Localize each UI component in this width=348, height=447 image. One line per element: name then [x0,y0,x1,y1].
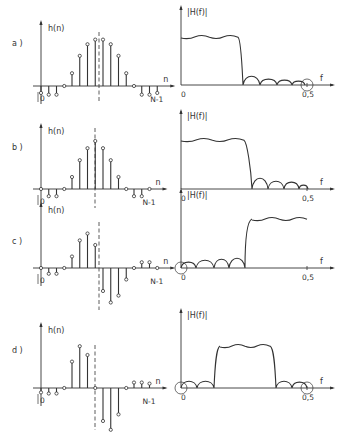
f-end-label: 0,5 [302,90,314,99]
sample-marker [117,54,120,57]
n-axis-label: n [156,377,161,386]
sample-marker [140,381,143,384]
sample-marker [101,419,104,422]
n-zero-label: 0 [40,396,45,405]
impulse-response-plot: h(n)n0N-1 [33,20,175,104]
H-axis-label: |H(f)| [187,191,207,200]
sample-marker [148,382,151,385]
arrow-right-icon [170,266,175,269]
arrow-right-icon [170,84,175,87]
sample-marker [125,278,128,281]
sample-marker [39,391,42,394]
arrow-up-icon [179,109,182,114]
sample-marker [101,289,104,292]
arrow-up-icon [39,123,42,128]
sample-marker [47,272,50,275]
sample-marker [86,353,89,356]
fir-filter-figure: a ) h(n)n0N-1 |H(f)|f00,5 b ) h(n)n0N-1 … [0,0,348,447]
sample-marker [140,261,143,264]
n-axis-label: n [163,75,168,84]
sample-marker [55,93,58,96]
sample-marker [94,243,97,246]
sample-marker [132,266,135,269]
panel-label: d ) [12,346,23,355]
arrow-right-icon [330,187,335,190]
n-axis-label: n [163,257,168,266]
sample-marker [109,301,112,304]
H-axis-label: |H(f)| [187,8,207,17]
sample-marker [94,139,97,142]
magnitude-curve [181,217,307,268]
f-zero-label: 0 [181,194,186,203]
sample-marker [109,43,112,46]
sample-marker [70,175,73,178]
H-axis-label: |H(f)| [187,112,207,121]
panel-d: d ) h(n)n0N-1 |H(f)|f00,5 [12,308,335,431]
n-axis-label: n [156,178,161,187]
arrow-right-icon [330,83,335,86]
f-zero-label: 0 [181,273,186,282]
sample-marker [125,386,128,389]
panel-label: c ) [12,237,22,246]
arrow-up-icon [179,308,182,313]
sample-marker [55,392,58,395]
f-axis-label: f [320,377,323,386]
arrow-right-icon [330,386,335,389]
sample-marker [78,345,81,348]
arrow-right-icon [163,187,168,190]
sample-marker [109,428,112,431]
sample-marker [78,159,81,162]
f-end-label: 0,5 [302,194,314,203]
h-axis-label: h(n) [48,206,64,215]
sample-marker [47,392,50,395]
sample-marker [156,91,159,94]
sample-marker [156,266,159,269]
frequency-response-plot: |H(f)|f00,5 [179,109,335,203]
h-axis-label: h(n) [48,24,64,33]
panel-c: c ) h(n)n0N-1 |H(f)|f00,5 [12,188,335,310]
sample-marker [132,195,135,198]
impulse-response-plot: h(n)n0N-1 [33,123,168,208]
f-end-label: 0,5 [302,393,314,402]
sample-marker [125,72,128,75]
magnitude-curve [181,138,308,189]
sample-marker [63,386,66,389]
arrow-up-icon [39,20,42,25]
sample-marker [78,54,81,57]
sample-marker [78,239,81,242]
sample-marker [70,255,73,258]
sample-marker [94,386,97,389]
sample-marker [148,93,151,96]
impulse-response-plot: h(n)n0N-1 [33,322,168,431]
sample-marker [117,413,120,416]
arrow-up-icon [179,5,182,10]
n-end-label: N-1 [150,277,163,286]
h-axis-label: h(n) [48,127,64,136]
sample-marker [86,43,89,46]
sample-marker [86,232,89,235]
magnitude-curve [181,35,305,85]
panel-b: b ) h(n)n0N-1 |H(f)|f00,5 [12,109,335,208]
frequency-response-plot: |H(f)|f00,5 [175,308,335,402]
arrow-right-icon [330,266,335,269]
sample-marker [39,91,42,94]
f-axis-label: f [320,74,323,83]
sample-marker [117,294,120,297]
sample-marker [140,93,143,96]
sample-marker [132,381,135,384]
f-axis-label: f [320,178,323,187]
sample-marker [55,195,58,198]
sample-marker [63,266,66,269]
n-end-label: N-1 [150,95,163,104]
n-end-label: N-1 [143,198,156,207]
sample-marker [70,72,73,75]
sample-marker [63,187,66,190]
sample-marker [132,84,135,87]
h-axis-label: h(n) [48,326,64,335]
sample-marker [148,261,151,264]
sample-marker [39,266,42,269]
H-axis-label: |H(f)| [187,311,207,320]
magnitude-curve [181,344,307,388]
sample-marker [70,360,73,363]
arrow-up-icon [39,322,42,327]
